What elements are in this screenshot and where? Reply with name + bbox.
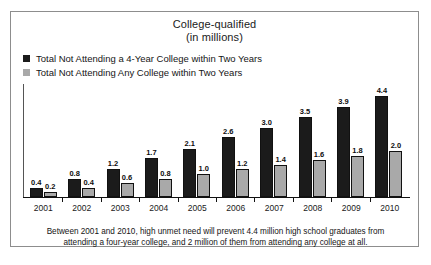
legend-item-dark: Total Not Attending a 4-Year College wit…	[23, 52, 353, 65]
bar-column: 0.8	[68, 179, 81, 197]
bar-group: 2.11.0	[178, 86, 216, 197]
chart-title: College-qualified	[11, 18, 418, 31]
bar-column: 2.1	[183, 149, 196, 197]
caption-line-1: Between 2001 and 2010, high unmet need w…	[25, 226, 406, 237]
bar	[183, 149, 196, 197]
bar-group: 0.40.2	[24, 86, 62, 197]
bar-column: 0.6	[121, 183, 134, 197]
bar-value-label: 0.2	[45, 183, 55, 191]
legend-swatch-light-icon	[23, 69, 30, 76]
bar	[299, 117, 312, 197]
bar-column: 4.4	[375, 96, 388, 197]
x-axis-tick	[370, 198, 371, 202]
bar-column: 1.7	[145, 158, 158, 197]
bar-value-label: 3.0	[261, 119, 271, 127]
bar	[121, 183, 134, 197]
bar-group: 3.91.8	[331, 86, 369, 197]
bar-column: 3.0	[260, 128, 273, 197]
x-axis-tick	[178, 198, 179, 202]
bar-column: 1.4	[274, 165, 287, 197]
bar	[68, 179, 81, 197]
bar	[159, 179, 172, 197]
bar-column: 1.2	[107, 169, 120, 197]
legend-item-light: Total Not Attending Any College within T…	[23, 66, 353, 79]
x-axis-label: 2003	[101, 203, 140, 214]
bar	[44, 192, 57, 197]
legend-label-light: Total Not Attending Any College within T…	[36, 67, 242, 78]
bar	[389, 151, 402, 197]
x-axis-tick	[62, 198, 63, 202]
bar	[82, 188, 95, 197]
bar-value-label: 0.4	[83, 179, 93, 187]
bar-value-label: 3.9	[338, 98, 348, 106]
bar-value-label: 2.0	[391, 142, 401, 150]
bar-column: 1.8	[351, 156, 364, 197]
bar-value-label: 1.8	[352, 147, 362, 155]
bar	[274, 165, 287, 197]
bar	[375, 96, 388, 197]
bar-group: 2.61.2	[216, 86, 254, 197]
x-axis-label: 2002	[63, 203, 102, 214]
bar	[313, 160, 326, 197]
chart-figure: College-qualified (in millions) Total No…	[10, 11, 419, 247]
bar-group: 1.20.6	[101, 86, 139, 197]
bar-group: 4.42.0	[370, 86, 408, 197]
bar-group: 3.51.6	[293, 86, 331, 197]
bar-column: 2.6	[222, 137, 235, 197]
bar-column: 0.2	[44, 192, 57, 197]
x-axis-label: 2010	[371, 203, 410, 214]
chart-caption: Between 2001 and 2010, high unmet need w…	[25, 226, 406, 248]
x-axis-label: 2004	[140, 203, 179, 214]
bar-column: 2.0	[389, 151, 402, 197]
x-axis-label: 2009	[332, 203, 371, 214]
bar-value-label: 1.4	[275, 156, 285, 164]
bar-column: 1.6	[313, 160, 326, 197]
bar-value-label: 1.2	[237, 160, 247, 168]
bar-value-label: 4.4	[377, 87, 387, 95]
bar-groups: 0.40.20.80.41.20.61.70.82.11.02.61.23.01…	[24, 86, 408, 197]
bar	[222, 137, 235, 197]
bar-value-label: 0.8	[160, 170, 170, 178]
x-axis-tick	[216, 198, 217, 202]
x-axis-label: 2008	[294, 203, 333, 214]
legend-swatch-dark-icon	[23, 55, 30, 62]
x-axis-tick	[293, 198, 294, 202]
x-axis-tick	[139, 198, 140, 202]
x-axis-label: 2001	[24, 203, 63, 214]
bar	[107, 169, 120, 197]
bar-value-label: 0.8	[69, 170, 79, 178]
bar	[197, 174, 210, 197]
bar	[260, 128, 273, 197]
plot-area: 0.40.20.80.41.20.61.70.82.11.02.61.23.01…	[23, 86, 408, 198]
x-axis-tick	[331, 198, 332, 202]
bar-group: 0.80.4	[62, 86, 100, 197]
chart-title-block: College-qualified (in millions)	[11, 18, 418, 44]
chart-subtitle: (in millions)	[11, 31, 418, 44]
bar	[236, 169, 249, 197]
bar	[145, 158, 158, 197]
bar	[337, 107, 350, 197]
bar-value-label: 1.2	[108, 160, 118, 168]
bar-value-label: 1.0	[199, 165, 209, 173]
bar-value-label: 1.6	[314, 151, 324, 159]
bar-group: 3.01.4	[254, 86, 292, 197]
x-axis-labels: 2001200220032004200520062007200820092010	[24, 203, 409, 214]
bar-column: 0.8	[159, 179, 172, 197]
legend-label-dark: Total Not Attending a 4-Year College wit…	[36, 53, 262, 64]
bar-column: 1.0	[197, 174, 210, 197]
bar-value-label: 1.7	[146, 149, 156, 157]
chart-legend: Total Not Attending a 4-Year College wit…	[23, 52, 353, 80]
bar-value-label: 2.1	[185, 140, 195, 148]
bar-column: 0.4	[30, 188, 43, 197]
caption-line-2: attending a four-year college, and 2 mil…	[25, 237, 406, 248]
x-axis-tick	[101, 198, 102, 202]
x-axis-label: 2005	[178, 203, 217, 214]
x-axis-tick	[254, 198, 255, 202]
bar-value-label: 3.5	[300, 108, 310, 116]
bar	[30, 188, 43, 197]
bar-value-label: 2.6	[223, 128, 233, 136]
x-axis-label: 2007	[255, 203, 294, 214]
bar-column: 3.9	[337, 107, 350, 197]
bar-group: 1.70.8	[139, 86, 177, 197]
bar-column: 1.2	[236, 169, 249, 197]
